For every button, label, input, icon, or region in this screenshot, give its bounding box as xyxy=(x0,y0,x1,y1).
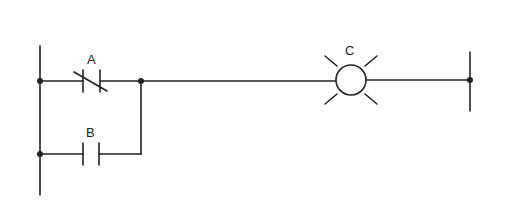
junction-dot-right xyxy=(467,77,473,83)
contact-b-normally-open: B xyxy=(40,81,141,165)
lamp-c-icon: C xyxy=(325,43,377,104)
lamp-c-label: C xyxy=(345,43,354,58)
ladder-diagram: A B C xyxy=(0,0,505,210)
contact-b-label: B xyxy=(86,125,95,140)
contact-a-normally-closed: A xyxy=(40,52,336,92)
contact-a-label: A xyxy=(87,52,96,67)
